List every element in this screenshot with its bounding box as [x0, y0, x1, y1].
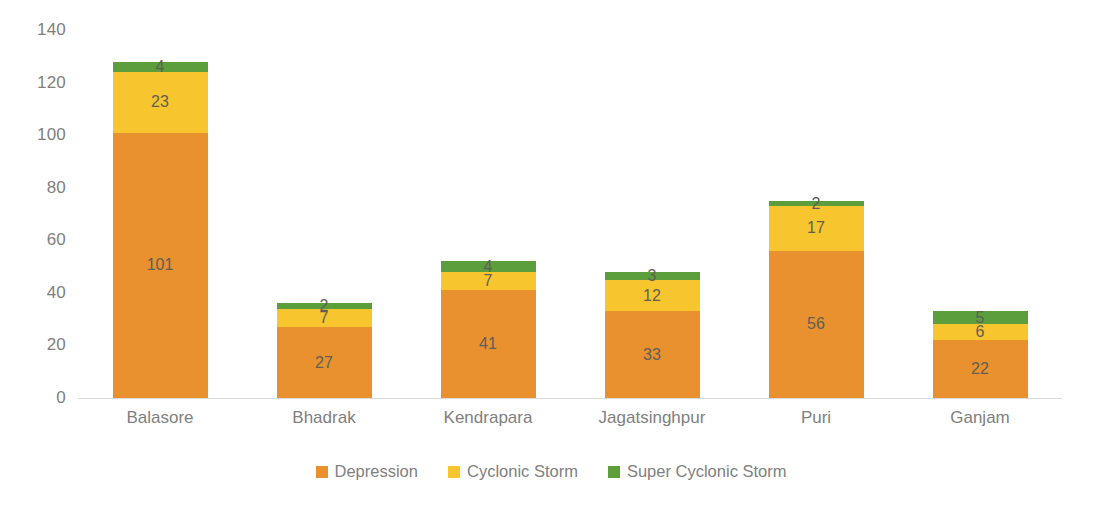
y-axis-tick-label: 60 [10, 230, 66, 250]
bar-stack: 2772 [277, 303, 372, 398]
legend-color-swatch [608, 466, 620, 478]
y-axis-tick-label: 0 [10, 388, 66, 408]
legend-color-swatch [448, 466, 460, 478]
bar-segment[interactable]: 17 [769, 206, 864, 251]
y-axis-tick-label: 140 [10, 20, 66, 40]
bar-stack: 2265 [933, 311, 1028, 398]
bar-value-label: 7 [441, 273, 536, 289]
bar-segment[interactable]: 23 [113, 72, 208, 132]
bar-segment[interactable]: 2 [277, 303, 372, 308]
bar-segment[interactable]: 7 [441, 272, 536, 290]
bar-segment[interactable]: 6 [933, 324, 1028, 340]
bar-segment[interactable]: 7 [277, 309, 372, 327]
bar-segment[interactable]: 2 [769, 201, 864, 206]
bar-value-label: 23 [113, 94, 208, 110]
bar-group[interactable]: 56172 [769, 30, 864, 398]
legend-label: Cyclonic Storm [467, 462, 578, 481]
chart-legend: DepressionCyclonic StormSuper Cyclonic S… [0, 462, 1102, 481]
bar-value-label: 27 [277, 355, 372, 371]
bar-segment[interactable]: 3 [605, 272, 700, 280]
y-axis-tick-label: 40 [10, 283, 66, 303]
stacked-bar-chart: 020406080100120140 101234277241743312356… [0, 0, 1102, 510]
bar-segment[interactable]: 4 [441, 261, 536, 272]
bar-value-label: 22 [933, 361, 1028, 377]
bar-value-label: 33 [605, 347, 700, 363]
bar-stack: 101234 [113, 62, 208, 398]
bar-value-label: 5 [933, 310, 1028, 326]
x-axis-line [78, 398, 1062, 399]
bar-value-label: 101 [113, 257, 208, 273]
x-axis-category-label: Jagatsinghpur [570, 408, 734, 428]
bar-stack: 4174 [441, 261, 536, 398]
bar-segment[interactable]: 12 [605, 280, 700, 312]
bar-group[interactable]: 4174 [441, 30, 536, 398]
bar-segment[interactable]: 56 [769, 251, 864, 398]
bar-value-label: 6 [933, 324, 1028, 340]
x-axis-category-label: Bhadrak [242, 408, 406, 428]
legend-label: Super Cyclonic Storm [627, 462, 787, 481]
x-axis-category-label: Ganjam [898, 408, 1062, 428]
bar-group[interactable]: 2265 [933, 30, 1028, 398]
y-axis-tick-label: 100 [10, 125, 66, 145]
x-axis-category-label: Kendrapara [406, 408, 570, 428]
legend-item[interactable]: Super Cyclonic Storm [608, 462, 787, 481]
bar-segment[interactable]: 33 [605, 311, 700, 398]
x-axis-category-labels: BalasoreBhadrakKendraparaJagatsinghpurPu… [78, 408, 1062, 438]
legend-item[interactable]: Cyclonic Storm [448, 462, 578, 481]
legend-label: Depression [335, 462, 418, 481]
bar-stack: 56172 [769, 201, 864, 398]
bar-value-label: 56 [769, 316, 864, 332]
bar-segment[interactable]: 4 [113, 62, 208, 73]
legend-item[interactable]: Depression [316, 462, 418, 481]
bar-group[interactable]: 2772 [277, 30, 372, 398]
bar-value-label: 7 [277, 310, 372, 326]
bar-value-label: 41 [441, 336, 536, 352]
bar-group[interactable]: 33123 [605, 30, 700, 398]
bar-segment[interactable]: 41 [441, 290, 536, 398]
y-axis: 020406080100120140 [0, 30, 66, 398]
y-axis-tick-label: 80 [10, 178, 66, 198]
legend-color-swatch [316, 466, 328, 478]
bar-segment[interactable]: 5 [933, 311, 1028, 324]
x-axis-category-label: Balasore [78, 408, 242, 428]
y-axis-tick-label: 20 [10, 335, 66, 355]
bar-value-label: 12 [605, 288, 700, 304]
bar-segment[interactable]: 27 [277, 327, 372, 398]
bar-segment[interactable]: 22 [933, 340, 1028, 398]
bar-group[interactable]: 101234 [113, 30, 208, 398]
bar-stack: 33123 [605, 272, 700, 398]
plot-area: 1012342772417433123561722265 [78, 30, 1062, 398]
x-axis-category-label: Puri [734, 408, 898, 428]
bar-segment[interactable]: 101 [113, 133, 208, 398]
bar-value-label: 17 [769, 220, 864, 236]
y-axis-tick-label: 120 [10, 73, 66, 93]
